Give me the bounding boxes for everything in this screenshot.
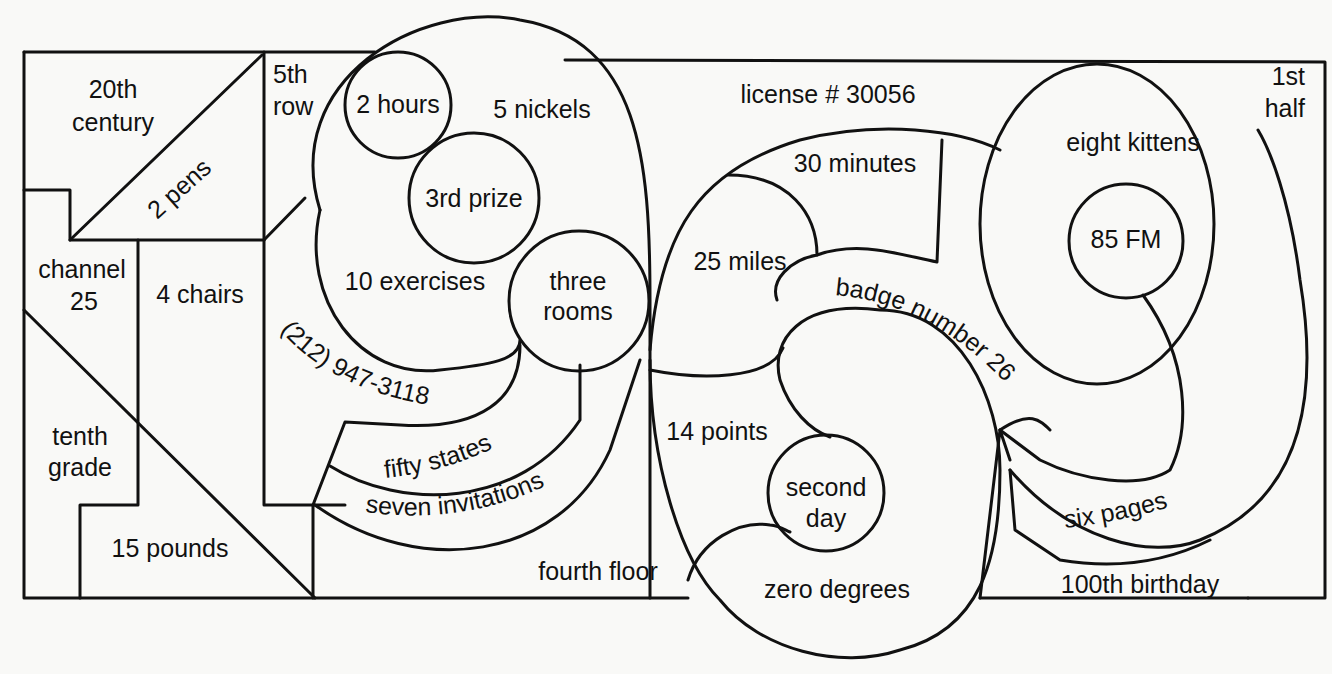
diagram-1969: 20th century 2 pens 5th row 2 hours 5 ni… [0, 0, 1332, 674]
label-20th-century: 20th [89, 75, 138, 103]
label-channel-25-1: channel [38, 255, 126, 283]
label-5th-row-1: 5th [273, 60, 308, 88]
label-second-day-2: day [806, 504, 847, 532]
label-six-pages: six pages [1062, 485, 1169, 533]
label-1st-half-1: 1st [1272, 62, 1305, 90]
label-three-rooms-2: rooms [543, 297, 612, 325]
label-second-day-1: second [786, 473, 867, 501]
label-10-exercises: 10 exercises [345, 267, 485, 295]
label-tenth-grade-2: grade [48, 453, 112, 481]
label-tenth-grade-1: tenth [52, 422, 108, 450]
region-labels: 20th century 2 pens 5th row 2 hours 5 ni… [38, 60, 1305, 603]
label-85-fm: 85 FM [1091, 225, 1162, 253]
label-2-hours: 2 hours [356, 90, 439, 118]
label-fourth-floor: fourth floor [538, 557, 658, 585]
label-15-pounds: 15 pounds [112, 534, 229, 562]
label-5-nickels: 5 nickels [493, 95, 590, 123]
label-25-miles: 25 miles [693, 247, 786, 275]
label-20th-century-2: century [72, 108, 154, 136]
label-100th-birthday: 100th birthday [1061, 570, 1220, 598]
label-zero-degrees: zero degrees [764, 575, 910, 603]
label-30-minutes: 30 minutes [794, 149, 916, 177]
label-fifty-states: fifty states [383, 427, 495, 483]
label-1st-half-2: half [1265, 94, 1305, 122]
label-5th-row-2: row [273, 92, 314, 120]
label-2-pens: 2 pens [142, 153, 217, 224]
label-3rd-prize: 3rd prize [425, 184, 522, 212]
label-badge-number: badge number 26 [834, 272, 1021, 386]
label-phone: (212) 947-3118 [276, 315, 432, 410]
label-channel-25-2: 25 [70, 287, 98, 315]
label-eight-kittens: eight kittens [1066, 128, 1199, 156]
digit-one-lines [24, 52, 315, 598]
label-three-rooms-1: three [550, 267, 607, 295]
label-license: license # 30056 [740, 80, 915, 108]
label-4-chairs: 4 chairs [156, 280, 244, 308]
label-14-points: 14 points [666, 417, 767, 445]
